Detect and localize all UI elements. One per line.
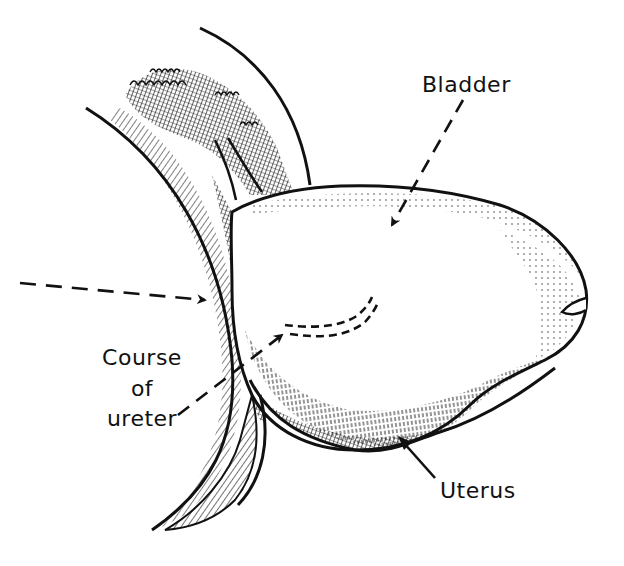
left-pointer-arrow — [20, 283, 205, 300]
uterus-leader-line — [403, 442, 435, 478]
label-course-line3: ureter — [92, 406, 192, 431]
label-course-line2: of — [92, 376, 192, 401]
body-wall-hatching — [108, 108, 241, 528]
anatomy-illustration — [0, 0, 624, 566]
label-course-of-ureter: Course of ureter — [92, 345, 192, 431]
label-uterus: Uterus — [440, 478, 516, 503]
label-course-line1: Course — [92, 345, 192, 370]
label-bladder: Bladder — [422, 72, 511, 97]
